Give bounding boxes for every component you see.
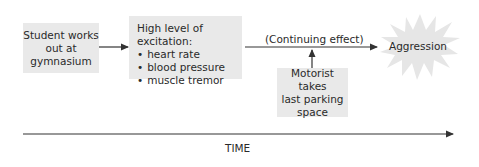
stimulus-line-1: Student works xyxy=(23,29,99,42)
stimulus-box: Student works out at gymnasium xyxy=(23,23,99,73)
trigger-line-1: Motorist takes xyxy=(277,67,348,93)
arousal-item: blood pressure xyxy=(137,61,242,74)
arousal-item: muscle tremor xyxy=(137,74,242,87)
arousal-heading: High level of excitation: xyxy=(137,22,242,48)
continuing-effect-label: (Continuing effect) xyxy=(265,33,364,45)
trigger-box: Motorist takes last parking space xyxy=(277,68,348,117)
stimulus-line-2: out at xyxy=(23,42,99,55)
arousal-box: High level of excitation: heart rate blo… xyxy=(129,16,242,79)
trigger-line-3: space xyxy=(277,106,348,119)
aggression-label: Aggression xyxy=(389,40,447,52)
arousal-item: heart rate xyxy=(137,48,242,61)
stimulus-line-3: gymnasium xyxy=(23,55,99,68)
trigger-line-2: last parking xyxy=(277,93,348,106)
time-axis-label: TIME xyxy=(225,142,250,154)
arousal-list: heart rate blood pressure muscle tremor xyxy=(137,48,242,87)
